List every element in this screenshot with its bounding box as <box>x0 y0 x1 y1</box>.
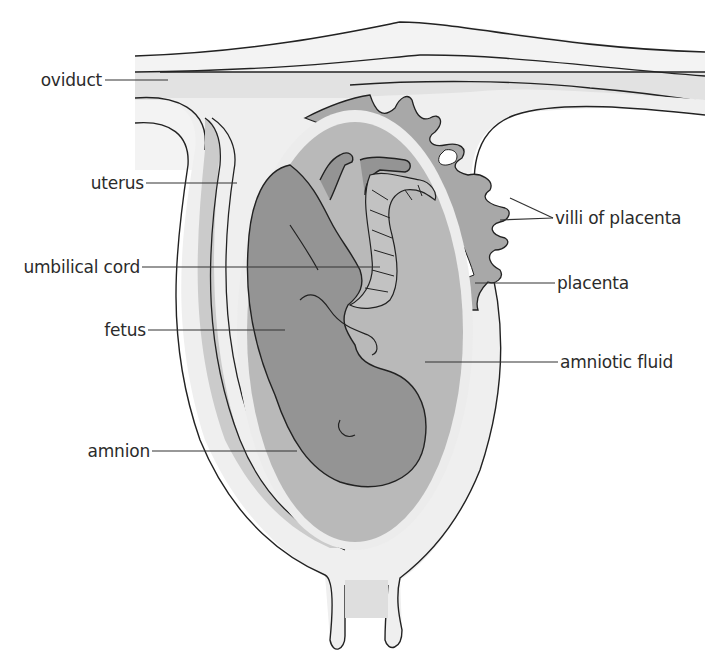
label-amnion: amnion <box>50 441 150 461</box>
label-umbilical-cord: umbilical cord <box>0 257 140 277</box>
label-fetus: fetus <box>60 320 146 340</box>
label-villi-of-placenta: villi of placenta <box>555 208 681 228</box>
label-placenta: placenta <box>557 273 629 293</box>
label-uterus: uterus <box>60 173 144 193</box>
label-amniotic-fluid: amniotic fluid <box>560 352 673 372</box>
label-oviduct: oviduct <box>30 70 102 90</box>
